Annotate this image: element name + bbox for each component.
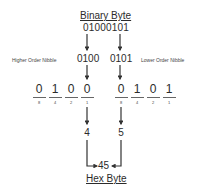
weight-label: 4: [49, 100, 61, 105]
bit-underline: [147, 97, 160, 98]
weight-label: 1: [81, 100, 93, 105]
low-bit-1: 1: [163, 82, 175, 96]
high-bit-2: 0: [65, 82, 77, 96]
high-hex-digit: 4: [81, 127, 93, 138]
lower-nibble-value: 0101: [110, 53, 132, 64]
weight-label: 2: [147, 100, 159, 105]
binary-byte-value: 01000101: [83, 22, 129, 33]
bit-underline: [81, 97, 94, 98]
high-bit-1: 0: [81, 82, 93, 96]
high-bit-4: 1: [49, 82, 61, 96]
weight-label: 8: [33, 100, 45, 105]
low-hex-digit: 5: [115, 127, 127, 138]
weight-label: 4: [131, 100, 143, 105]
higher-nibble-label: Higher Order Nibble: [12, 57, 56, 63]
bit-underline: [131, 97, 144, 98]
binary-byte-title: Binary Byte: [80, 10, 131, 21]
weight-label: 2: [65, 100, 77, 105]
weight-label: 1: [163, 100, 175, 105]
low-bit-2: 0: [147, 82, 159, 96]
hex-byte-value: 45: [98, 160, 109, 171]
bit-underline: [163, 97, 176, 98]
weight-label: 8: [115, 100, 127, 105]
bit-underline: [115, 97, 128, 98]
bit-underline: [65, 97, 78, 98]
low-bit-8: 0: [115, 82, 127, 96]
bit-underline: [49, 97, 62, 98]
high-bit-8: 0: [33, 82, 45, 96]
lower-nibble-label: Lower Order Nibble: [141, 57, 184, 63]
low-bit-4: 1: [131, 82, 143, 96]
hex-byte-title: Hex Byte: [86, 173, 127, 184]
bit-underline: [33, 97, 46, 98]
higher-nibble-value: 0100: [77, 53, 99, 64]
